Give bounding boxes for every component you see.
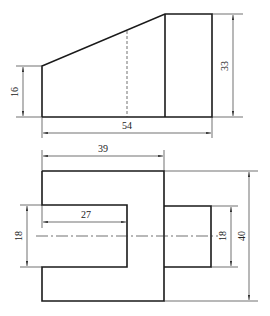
dim-54: 54 xyxy=(42,117,212,138)
dim-text-16: 16 xyxy=(9,87,20,97)
front-view: 39 27 18 18 40 xyxy=(13,143,258,301)
dim-text-18-left: 18 xyxy=(13,231,24,241)
dim-text-39: 39 xyxy=(98,143,108,154)
dim-39: 39 xyxy=(42,143,164,171)
dim-text-40: 40 xyxy=(236,231,247,241)
dim-text-33: 33 xyxy=(219,61,230,71)
dim-text-27: 27 xyxy=(81,209,91,220)
front-view-boss xyxy=(164,206,211,267)
engineering-drawing: 16 33 54 39 xyxy=(0,0,270,316)
top-view: 16 33 54 xyxy=(9,14,243,138)
dim-16: 16 xyxy=(9,66,42,117)
dim-27: 27 xyxy=(42,205,126,228)
dim-33: 33 xyxy=(212,14,243,117)
dim-18-boss: 18 xyxy=(211,206,238,267)
dim-text-54: 54 xyxy=(122,120,132,131)
dim-text-18-right: 18 xyxy=(217,231,228,241)
